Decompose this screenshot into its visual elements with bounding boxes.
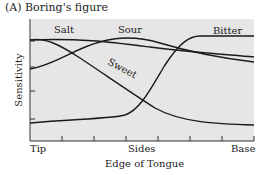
y-axis-label: Sensitivity (13, 53, 24, 107)
salt-label: Salt (54, 24, 74, 35)
plot-area (30, 19, 254, 141)
x-tick-sides: Sides (128, 143, 156, 154)
bitter-label: Bitter (213, 25, 243, 36)
sour-label: Sour (118, 24, 142, 35)
x-tick-tip: Tip (30, 143, 46, 154)
x-tick-base: Base (231, 143, 255, 154)
x-axis-label: Edge of Tongue (105, 158, 184, 169)
